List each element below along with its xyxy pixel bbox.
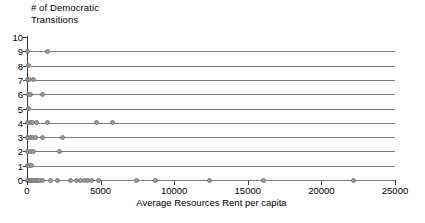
x-tick-label-20000: 20000: [308, 186, 334, 196]
x-tick-label-0: 0: [24, 186, 29, 196]
data-point: [26, 63, 31, 68]
x-tick-label-25000: 25000: [382, 186, 408, 196]
data-point: [110, 120, 115, 125]
data-point: [45, 120, 50, 125]
y-axis-title-line-2: Transitions: [31, 14, 99, 26]
plot-area: [27, 37, 395, 180]
x-tick-label-15000: 15000: [235, 186, 261, 196]
x-axis-title: Average Resources Rent per capita: [27, 197, 396, 208]
y-tick-label-10: 10: [1, 33, 23, 43]
y-tick-label-3: 3: [1, 133, 23, 143]
gridline-y-9: [27, 51, 395, 52]
y-tick-label-4: 4: [1, 119, 23, 129]
data-point: [31, 77, 36, 82]
gridline-y-5: [27, 109, 395, 110]
data-point: [31, 149, 36, 154]
gridline-y-8: [27, 66, 395, 67]
gridline-y-4: [27, 123, 395, 124]
y-tick-label-7: 7: [1, 76, 23, 86]
y-axis-title-line-1: # of Democratic: [31, 2, 99, 14]
data-point: [33, 135, 38, 140]
y-tick-label-8: 8: [1, 62, 23, 72]
gridline-y-1: [27, 166, 395, 167]
gridline-y-2: [27, 151, 395, 152]
data-point: [94, 120, 99, 125]
data-point: [60, 135, 65, 140]
y-tick-label-6: 6: [1, 90, 23, 100]
gridline-y-6: [27, 94, 395, 95]
y-tick-label-1: 1: [1, 162, 23, 172]
y-tick-label-5: 5: [1, 105, 23, 115]
y-tick-label-9: 9: [1, 47, 23, 57]
data-point: [28, 92, 33, 97]
x-tick-label-10000: 10000: [161, 186, 187, 196]
data-point: [45, 49, 50, 54]
data-point: [57, 149, 62, 154]
y-axis-title: # of Democratic Transitions: [31, 2, 99, 25]
data-point: [29, 163, 34, 168]
y-tick-label-0: 0: [1, 176, 23, 186]
data-point: [25, 49, 30, 54]
y-tick-label-2: 2: [1, 147, 23, 157]
scatter-chart-figure: # of Democratic Transitions 012345678910…: [0, 0, 425, 223]
y-axis-tick-labels: 012345678910: [0, 37, 23, 180]
x-tick-label-5000: 5000: [90, 186, 111, 196]
data-point: [40, 92, 45, 97]
gridline-y-7: [27, 80, 395, 81]
data-point: [34, 120, 39, 125]
data-point: [40, 135, 45, 140]
gridline-y-3: [27, 137, 395, 138]
data-point: [26, 106, 31, 111]
